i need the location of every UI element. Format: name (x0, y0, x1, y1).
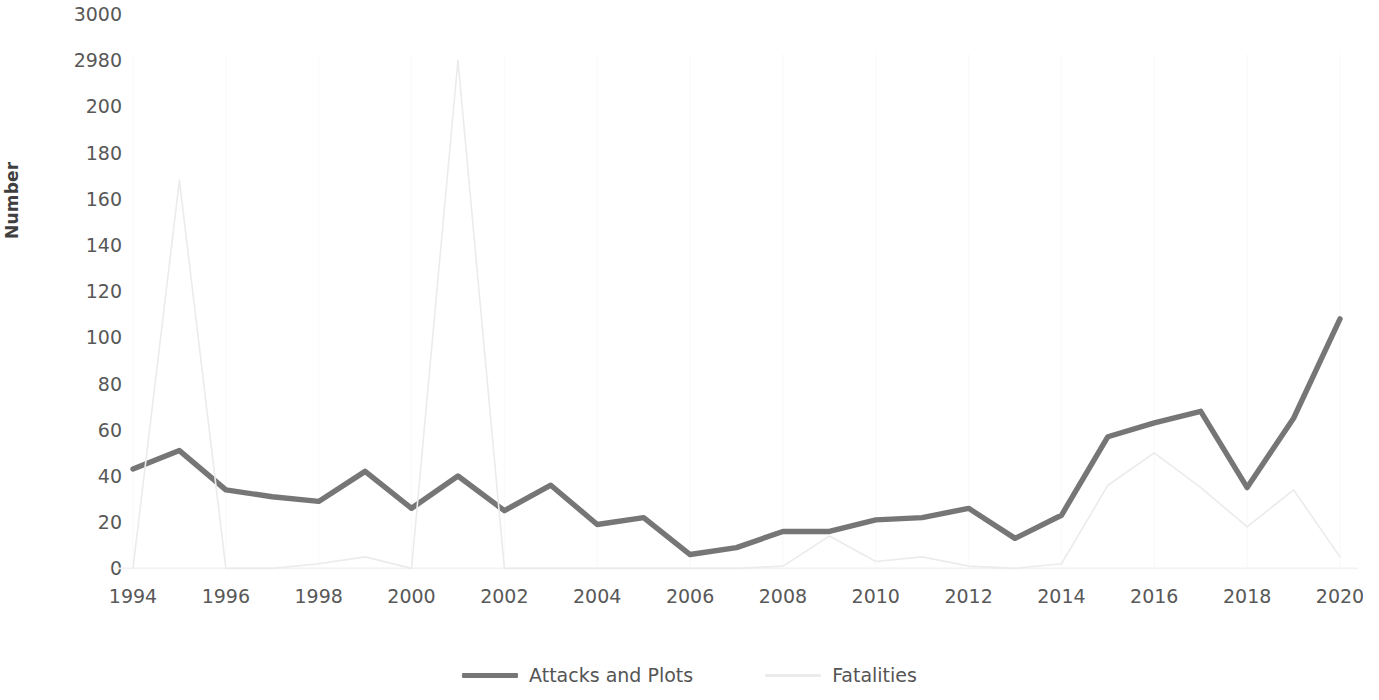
legend-swatch-icon (765, 674, 821, 677)
legend-item-attacks-and-plots[interactable]: Attacks and Plots (462, 665, 693, 685)
series-line-attacks-and-plots (133, 319, 1340, 555)
series-layer (133, 60, 1340, 568)
line-chart: Number 300029802001801601401201008060402… (0, 0, 1379, 700)
legend-item-fatalities[interactable]: Fatalities (765, 665, 917, 685)
legend-label: Fatalities (832, 665, 917, 685)
gridlines-layer (133, 54, 1340, 568)
legend-label: Attacks and Plots (529, 665, 693, 685)
series-line-fatalities (133, 60, 1340, 568)
chart-legend: Attacks and PlotsFatalities (0, 655, 1379, 695)
plot-area (0, 0, 1379, 700)
legend-swatch-icon (462, 673, 518, 678)
